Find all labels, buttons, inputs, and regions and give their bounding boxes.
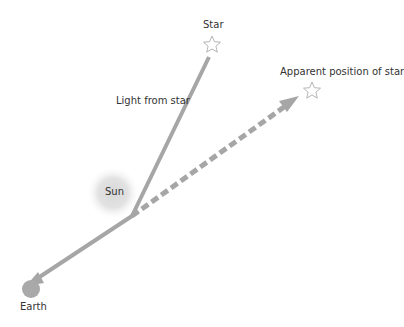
star-icon (204, 36, 221, 52)
apparent-ray-line (132, 107, 284, 216)
apparent-star-icon (304, 82, 321, 98)
apparent-position-label: Apparent position of star (280, 66, 404, 77)
star-label: Star (203, 19, 224, 30)
earth-icon (22, 280, 40, 298)
light-from-star-label: Light from star (116, 95, 190, 106)
light-ray-line (38, 57, 209, 278)
sun-label: Sun (105, 186, 124, 197)
earth-label: Earth (20, 301, 47, 312)
